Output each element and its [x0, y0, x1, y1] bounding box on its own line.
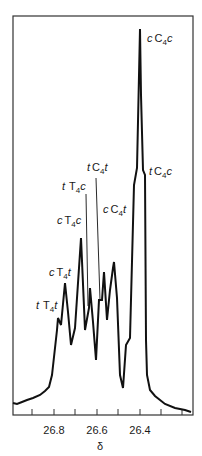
- nmr-spectrum-chart: 26.8 26.6 26.4 δ cC4c tC4c tC4t tT4c cT4…: [0, 0, 202, 456]
- spectrum-line: [13, 29, 191, 412]
- annotation-cC4c: cC4c: [147, 32, 173, 47]
- x-tick-label-26.6: 26.6: [86, 424, 107, 436]
- annotation-tC4t: tC4t: [87, 161, 108, 176]
- annotation-tT4t: tT4t: [36, 299, 58, 314]
- annotation-cT4t: cT4t: [49, 266, 72, 281]
- annotation-tC4c: tC4c: [149, 165, 172, 180]
- annotation-tT4c: tT4c: [62, 180, 86, 195]
- annotation-cC4t: cC4t: [103, 203, 127, 218]
- x-tick-label-26.8: 26.8: [43, 424, 64, 436]
- x-axis-label: δ: [97, 440, 103, 452]
- x-tick-label-26.4: 26.4: [129, 424, 150, 436]
- annotation-cT4c: cT4c: [57, 214, 82, 229]
- x-axis-ticks: [32, 409, 182, 415]
- plot-frame: [13, 16, 193, 415]
- annotation-leaders: [86, 178, 100, 306]
